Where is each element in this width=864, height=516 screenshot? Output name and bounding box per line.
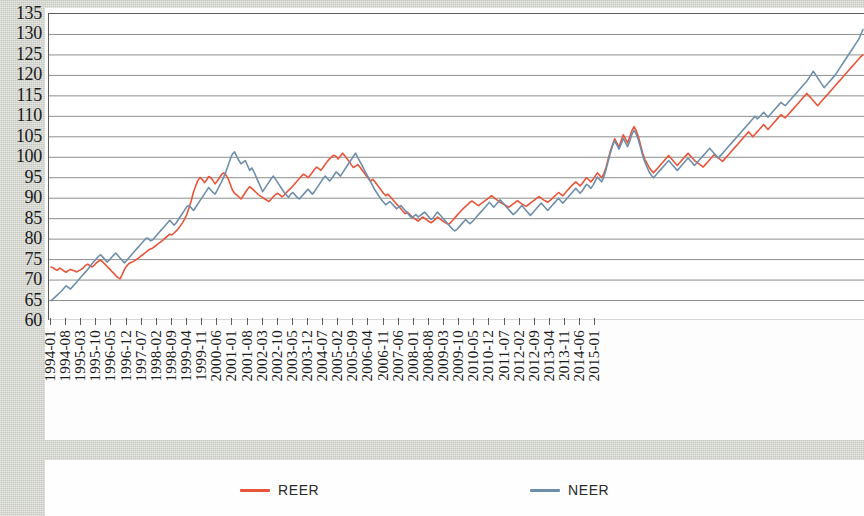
y-axis-tick-label: 85 xyxy=(25,209,42,227)
x-axis-tick-mark xyxy=(398,318,399,325)
x-axis-tick-mark xyxy=(458,318,459,325)
legend-item-reer[interactable]: REER xyxy=(240,482,319,498)
y-axis-tick-label: 120 xyxy=(16,65,42,83)
x-axis-tick-mark xyxy=(367,318,368,325)
legend-item-neer[interactable]: NEER xyxy=(530,482,609,498)
x-axis-tick-mark xyxy=(126,318,127,325)
x-axis-tick-label: 1996-05 xyxy=(102,330,119,381)
y-axis-tick-label: 90 xyxy=(25,188,42,206)
x-axis-tick-label: 2006-04 xyxy=(359,330,376,381)
y-axis-tick-label: 100 xyxy=(16,147,42,165)
x-axis-tick-mark xyxy=(247,318,248,325)
x-axis-tick-mark xyxy=(216,318,217,325)
x-axis-tick-mark xyxy=(443,318,444,325)
x-axis-tick-mark xyxy=(322,318,323,325)
x-axis-tick-mark xyxy=(504,318,505,325)
x-axis-tick-label: 2011-07 xyxy=(496,330,513,381)
x-axis-tick-mark xyxy=(50,318,51,325)
x-axis-tick-mark xyxy=(231,318,232,325)
chart-svg xyxy=(49,14,864,320)
y-axis-tick-label: 95 xyxy=(25,168,42,186)
x-axis-tick-mark xyxy=(549,318,550,325)
x-axis-tick-mark xyxy=(201,318,202,325)
x-axis-tick-mark xyxy=(65,318,66,325)
x-axis-tick-mark xyxy=(80,318,81,325)
plot-area xyxy=(48,13,864,320)
x-axis-tick-label: 2010-12 xyxy=(480,330,497,381)
x-axis-tick-mark xyxy=(186,318,187,325)
x-axis-tick-mark xyxy=(594,318,595,325)
y-axis-tick-label: 65 xyxy=(25,291,42,309)
x-axis-tick-label: 2006-11 xyxy=(375,330,392,381)
legend-swatch-neer xyxy=(530,489,560,492)
x-axis-tick-mark xyxy=(473,318,474,325)
legend-label: NEER xyxy=(568,482,609,498)
y-axis-tick-label: 115 xyxy=(17,86,42,104)
x-axis-tick-mark xyxy=(262,318,263,325)
x-axis-tick-mark xyxy=(141,318,142,325)
y-axis-tick-label: 125 xyxy=(16,45,42,63)
plot-background xyxy=(49,14,864,320)
x-axis-tick-mark xyxy=(292,318,293,325)
legend-panel: REERNEER xyxy=(45,460,864,516)
y-axis-tick-label: 130 xyxy=(16,24,42,42)
y-axis: 1351301251201151101051009590858075706560 xyxy=(0,0,45,340)
x-axis-tick-mark xyxy=(337,318,338,325)
y-axis-tick-label: 70 xyxy=(25,270,42,288)
x-axis-tick-mark xyxy=(352,318,353,325)
x-axis-tick-mark xyxy=(171,318,172,325)
x-axis-tick-label: 2001-01 xyxy=(223,330,240,381)
x-axis-tick-mark xyxy=(95,318,96,325)
x-axis-tick-label: 2001-08 xyxy=(239,330,256,381)
x-axis-tick-mark xyxy=(488,318,489,325)
x-axis-tick-mark xyxy=(413,318,414,325)
x-axis-tick-label: 2015-01 xyxy=(586,330,603,381)
x-axis-tick-mark xyxy=(564,318,565,325)
y-axis-tick-label: 80 xyxy=(25,229,42,247)
x-axis-tick-mark xyxy=(156,318,157,325)
x-axis-tick-mark xyxy=(383,318,384,325)
x-axis: 1994-011994-081995-031995-101996-051996-… xyxy=(45,318,864,440)
x-axis-tick-mark xyxy=(307,318,308,325)
x-axis-tick-mark xyxy=(519,318,520,325)
x-axis-tick-mark xyxy=(277,318,278,325)
y-axis-tick-label: 105 xyxy=(16,127,42,145)
x-axis-tick-mark xyxy=(534,318,535,325)
x-axis-tick-mark xyxy=(110,318,111,325)
y-axis-tick-label: 75 xyxy=(25,250,42,268)
x-axis-tick-mark xyxy=(428,318,429,325)
x-axis-tick-mark xyxy=(579,318,580,325)
y-axis-tick-label: 110 xyxy=(17,106,42,124)
legend-swatch-reer xyxy=(240,489,270,492)
legend-label: REER xyxy=(278,482,319,498)
y-axis-tick-label: 135 xyxy=(16,4,42,22)
y-axis-tick-label: 60 xyxy=(25,311,42,329)
